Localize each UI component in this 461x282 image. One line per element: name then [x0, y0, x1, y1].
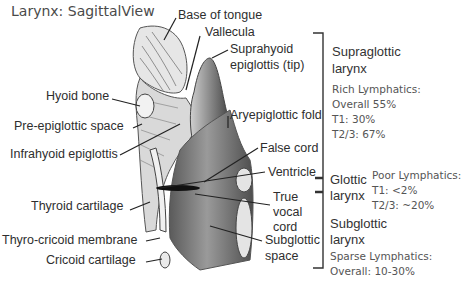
true-cord-cartilage: [236, 198, 252, 258]
region-glottic-stat: T2/3: ~20%: [372, 198, 434, 213]
label-true-vocal-cord-line1: True: [273, 190, 298, 205]
label-ventricle: Ventricle: [268, 165, 316, 180]
region-glottic-stat: T1: <2%: [372, 183, 417, 198]
region-glottic-name-line2: larynx: [330, 188, 365, 204]
region-subglottic-stat: Overall: 10-30%: [330, 264, 415, 279]
region-supraglottic-stat: T1: 30%: [332, 112, 375, 127]
label-aryepiglottic-fold: Aryepiglottic fold: [230, 108, 322, 123]
cricoid-cartilage-shape: [160, 252, 170, 268]
label-subglottic-space-line1: Subglottic: [265, 233, 320, 248]
label-infrahyoid-epiglottis: Infrahyoid epiglottis: [10, 147, 118, 162]
region-supraglottic-name-line1: Supraglottic: [332, 44, 401, 60]
region-supraglottic-stat: Overall 55%: [332, 97, 396, 112]
region-subglottic-name-line2: larynx: [330, 232, 365, 248]
region-glottic-lymphatics: Poor Lymphatics:: [372, 168, 461, 183]
label-suprahyoid-epiglottis-line2: epiglottis (tip): [230, 58, 304, 73]
label-pre-epiglottic-space: Pre-epiglottic space: [14, 119, 124, 134]
region-subglottic-name-line1: Subglottic: [330, 216, 387, 232]
label-false-cord: False cord: [260, 141, 318, 156]
label-thyro-cricoid-membrane: Thyro-cricoid membrane: [2, 233, 137, 248]
region-supraglottic-name-line2: larynx: [332, 61, 367, 77]
region-subglottic-lymphatics: Sparse Lymphatics:: [330, 249, 432, 264]
region-glottic-name-line1: Glottic: [330, 172, 367, 188]
label-vallecula: Vallecula: [205, 25, 255, 40]
false-cord-cartilage: [236, 168, 252, 192]
label-hyoid-bone: Hyoid bone: [46, 89, 109, 104]
label-subglottic-space-line2: space: [265, 249, 298, 264]
region-supraglottic-stat: T2/3: 67%: [332, 127, 386, 142]
label-cricoid-cartilage: Cricoid cartilage: [46, 253, 136, 268]
label-true-vocal-cord-line2: vocal: [273, 205, 302, 220]
label-suprahyoid-epiglottis-line1: Suprahyoid: [230, 42, 293, 57]
region-supraglottic-lymphatics: Rich Lymphatics:: [332, 82, 421, 97]
label-thyroid-cartilage: Thyroid cartilage: [31, 199, 123, 214]
label-base-of-tongue: Base of tongue: [178, 8, 262, 23]
